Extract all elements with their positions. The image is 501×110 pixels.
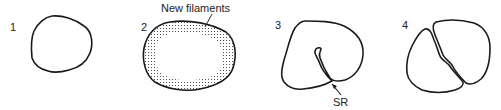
label-sr: SR	[333, 96, 348, 108]
cell-half-left	[407, 29, 463, 92]
label-new-filaments: New filaments	[161, 2, 231, 14]
panel-1: 1	[10, 16, 92, 72]
panel-number-4: 4	[402, 19, 408, 31]
cell-outline-3	[282, 21, 363, 89]
diagram-canvas: 1 2 New filaments 3 SR 4	[0, 0, 501, 110]
panel-number-3: 3	[275, 19, 281, 31]
sr-arrow-head-icon	[332, 84, 337, 89]
panel-2: 2 New filaments	[140, 2, 240, 95]
panel-3: 3 SR	[275, 19, 363, 108]
cell-outline-1	[31, 16, 91, 72]
cell-half-right	[433, 20, 490, 84]
stippled-ring	[140, 15, 240, 95]
panel-4: 4	[402, 19, 490, 92]
panel-number-1: 1	[10, 21, 16, 33]
